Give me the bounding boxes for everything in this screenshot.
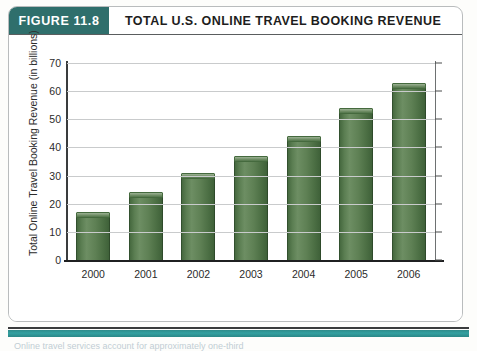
figure-header: FIGURE 11.8 TOTAL U.S. ONLINE TRAVEL BOO… bbox=[9, 7, 462, 35]
x-tick-label: 2002 bbox=[187, 268, 210, 280]
gridline bbox=[67, 176, 435, 177]
bar bbox=[76, 212, 110, 260]
y-tick-label: 40 bbox=[49, 141, 61, 153]
bar bbox=[339, 108, 373, 260]
y-tick-label: 20 bbox=[49, 198, 61, 210]
x-axis-line bbox=[64, 260, 444, 262]
bar-top-face bbox=[392, 83, 426, 89]
y-tick-label: 0 bbox=[55, 254, 61, 266]
chart-area: Total Online Travel Booking Revenue (in … bbox=[9, 35, 462, 321]
bar-front-face bbox=[76, 217, 110, 260]
y-tick-label: 60 bbox=[49, 85, 61, 97]
bar bbox=[181, 173, 215, 260]
y-tick-label: 70 bbox=[49, 57, 61, 69]
footer-divider bbox=[8, 327, 469, 329]
page-background: FIGURE 11.8 TOTAL U.S. ONLINE TRAVEL BOO… bbox=[0, 0, 477, 351]
gridline bbox=[67, 232, 435, 233]
gridline bbox=[67, 91, 435, 92]
plot-area: 0102030405060702000200120022003200420052… bbox=[67, 63, 435, 260]
x-tick-label: 2005 bbox=[344, 268, 367, 280]
bar-front-face bbox=[181, 178, 215, 260]
y-tick-mark-right bbox=[435, 119, 442, 120]
y-tick-mark-right bbox=[435, 147, 442, 148]
bar-top-face bbox=[76, 212, 110, 218]
bar bbox=[392, 83, 426, 260]
footer-accent-bar bbox=[8, 330, 469, 337]
y-tick-label: 30 bbox=[49, 170, 61, 182]
x-tick-label: 2001 bbox=[134, 268, 157, 280]
y-tick-mark-right bbox=[435, 63, 442, 64]
x-tick-label: 2000 bbox=[82, 268, 105, 280]
y-tick-mark-right bbox=[435, 231, 442, 232]
bar bbox=[287, 136, 321, 260]
figure-card: FIGURE 11.8 TOTAL U.S. ONLINE TRAVEL BOO… bbox=[8, 6, 463, 322]
y-tick-mark-right bbox=[435, 260, 442, 261]
y-tick-mark-right bbox=[435, 175, 442, 176]
bar-series bbox=[67, 63, 435, 260]
gridline bbox=[67, 147, 435, 148]
bar bbox=[129, 192, 163, 260]
figure-title: TOTAL U.S. ONLINE TRAVEL BOOKING REVENUE bbox=[109, 7, 462, 34]
x-tick-label: 2006 bbox=[397, 268, 420, 280]
y-tick-mark-right bbox=[435, 91, 442, 92]
bar-top-face bbox=[287, 136, 321, 142]
bar-top-face bbox=[129, 192, 163, 198]
x-tick-label: 2004 bbox=[292, 268, 315, 280]
bar-top-face bbox=[339, 108, 373, 114]
bar-top-face bbox=[234, 156, 268, 162]
gridline bbox=[67, 63, 435, 64]
gridline bbox=[67, 204, 435, 205]
y-tick-label: 10 bbox=[49, 226, 61, 238]
bar-front-face bbox=[392, 88, 426, 260]
bar-front-face bbox=[339, 113, 373, 260]
y-axis-title: Total Online Travel Booking Revenue (in … bbox=[27, 36, 39, 256]
figure-number-badge: FIGURE 11.8 bbox=[9, 7, 109, 34]
gridline bbox=[67, 119, 435, 120]
bar bbox=[234, 156, 268, 260]
bar-front-face bbox=[287, 141, 321, 260]
x-tick-label: 2003 bbox=[239, 268, 262, 280]
y-tick-label: 50 bbox=[49, 113, 61, 125]
figure-caption: Online travel services account for appro… bbox=[14, 341, 244, 351]
bar-front-face bbox=[129, 197, 163, 260]
y-tick-mark-right bbox=[435, 203, 442, 204]
